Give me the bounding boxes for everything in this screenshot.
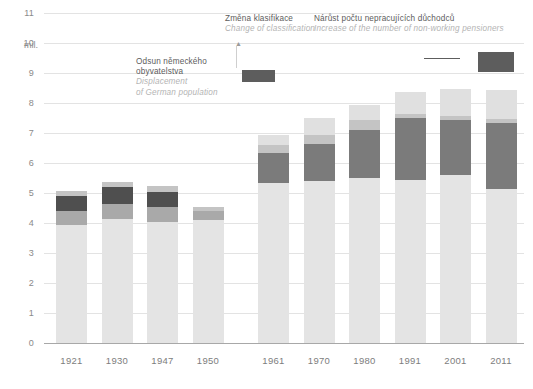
bar-segment-segment-3-dark [147,192,178,207]
bar-segment-segment-2-mid-gray [193,211,224,220]
bar-segment-segment-1-base [395,180,426,344]
bar-segment-segment-1-base [304,181,335,343]
bar-segment-segment-6-top [395,92,426,115]
bar-segment-segment-2-mid-gray [102,204,133,219]
annotation-classification-cz: Změna klasifikace [225,14,315,24]
gridline [44,43,524,44]
y-axis-tick-label: 3 [0,248,34,258]
annotation-displacement-cz-line1: Odsun německého [136,57,218,67]
bar-segment-segment-1-base [147,222,178,344]
bar-segment-segment-6-top [258,135,289,146]
bar-segment-segment-1-base [349,178,380,343]
annotation-displacement-cz-line2: obyvatelstva [136,67,218,77]
bar-segment-segment-3-dark [56,196,87,211]
bar-segment-segment-5-light [395,114,426,118]
bar-1970 [304,118,335,343]
bar-segment-segment-6-top [304,118,335,135]
y-axis-tick-label: 11 [0,8,34,18]
bar-segment-segment-4-pensioners [486,123,517,189]
bar-segment-segment-6-top [349,105,380,120]
bar-segment-segment-2-mid-gray [56,211,87,225]
bar-2001 [440,89,471,343]
y-axis-tick-label: 7 [0,128,34,138]
bar-segment-segment-4-pensioners [395,118,426,180]
plot-area: 0123456789101119211930194719501961197019… [44,20,524,345]
bar-segment-segment-1-base [193,220,224,343]
bar-segment-segment-1-base [56,225,87,344]
y-axis-tick-label: 6 [0,158,34,168]
bar-segment-segment-5-light [193,207,224,211]
bar-1921 [56,191,87,343]
bar-segment-segment-1-base [258,183,289,344]
x-axis-tick-label-2011: 2011 [471,355,531,366]
bar-segment-segment-5-light [56,191,87,196]
legend-line-pensioners [424,58,460,59]
bar-segment-segment-4-pensioners [258,153,289,183]
bar-1950 [193,207,224,343]
bar-1930 [102,182,133,343]
annotation-pensioners-en: Increase of the number of non-working pe… [314,24,504,34]
bar-segment-segment-1-base [486,189,517,344]
y-axis-tick-label: 10 [0,38,34,48]
bar-segment-segment-5-light [304,135,335,144]
bar-segment-segment-4-pensioners [349,130,380,178]
bar-segment-segment-6-top [440,89,471,116]
annotation-classification-en: Change of classification [225,24,315,34]
annotation-displacement-en-line1: Displacement [136,77,218,87]
y-axis-tick-label: 4 [0,218,34,228]
annotation-displacement-en-line2: of German population [136,88,218,98]
bar-segment-segment-4-pensioners [440,120,471,176]
legend-swatch-pensioners [478,52,514,72]
bar-segment-segment-5-light [147,186,178,191]
bar-segment-segment-5-light [440,116,471,120]
bar-segment-segment-3-dark [102,187,133,204]
y-axis-tick-label: 2 [0,278,34,288]
y-axis-tick-label: 5 [0,188,34,198]
y-axis-tick-label: 1 [0,308,34,318]
bar-segment-segment-5-light [349,120,380,131]
annotation-classification: Změna klasifikace Change of classificati… [225,14,315,34]
legend-swatch-classification [242,70,275,82]
y-axis-tick-label: 8 [0,98,34,108]
annotation-displacement: Odsun německého obyvatelstva Displacemen… [136,57,218,98]
classification-leader-line [236,46,237,68]
stacked-bar-chart: mil. 01234567891011192119301947195019611… [0,0,533,389]
bar-1991 [395,92,426,343]
bar-segment-segment-5-light [258,145,289,153]
gridline [44,73,524,74]
bar-segment-segment-1-base [102,219,133,344]
bar-1947 [147,186,178,343]
x-axis-tick-label-1950: 1950 [178,355,238,366]
bar-segment-segment-6-top [486,90,517,119]
bar-1980 [349,105,380,344]
bar-segment-segment-5-light [486,119,517,123]
annotation-pensioners: Nárůst počtu nepracujících důchodců Incr… [314,14,504,34]
bar-segment-segment-5-light [102,182,133,187]
y-axis-tick-label: 9 [0,68,34,78]
bar-segment-segment-1-base [440,175,471,343]
bar-2011 [486,90,517,343]
bar-segment-segment-2-mid-gray [147,207,178,222]
bar-segment-segment-4-pensioners [304,144,335,182]
bar-1961 [258,135,289,344]
y-axis-tick-label: 0 [0,338,34,348]
annotation-pensioners-cz: Nárůst počtu nepracujících důchodců [314,14,504,24]
x-axis-line [44,343,524,344]
